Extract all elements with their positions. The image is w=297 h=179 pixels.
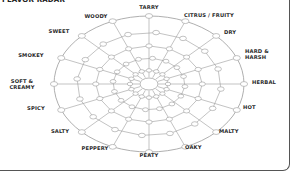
radar-node — [160, 92, 165, 96]
radar-node — [167, 131, 174, 135]
radar-node — [112, 90, 118, 94]
radar-node — [183, 55, 189, 59]
radar-node — [109, 19, 116, 24]
radar-node — [150, 56, 156, 60]
axis-label-hard-harsh: HARD &HARSH — [245, 48, 269, 60]
axis-label-peaty: PEATY — [139, 152, 158, 158]
radar-node — [163, 59, 169, 63]
radar-node — [166, 117, 172, 121]
radar-node — [164, 77, 169, 81]
radar-node — [218, 87, 225, 91]
radar-node — [126, 117, 132, 121]
axis-label-sweet: SWEET — [49, 28, 70, 34]
radar-node — [201, 49, 208, 53]
radar-node — [58, 56, 65, 61]
radar-node — [143, 108, 149, 112]
radar-node — [78, 130, 85, 135]
radar-node — [97, 96, 103, 100]
radar-node — [153, 30, 160, 34]
flavor-radar-diagram: TARRYCITRUS / FRUITYDRYHARD &HARSHHERBAL… — [0, 0, 297, 179]
radar-node — [109, 144, 116, 149]
radar-node — [182, 85, 188, 89]
radar-node — [139, 133, 146, 137]
axis-label-peppery: PEPPERY — [81, 145, 108, 151]
axis-label-salty: SALTY — [51, 128, 69, 134]
radar-node — [129, 77, 134, 81]
axis-label-woody: WOODY — [85, 13, 108, 19]
radar-node — [165, 82, 170, 86]
radar-node — [181, 75, 187, 79]
radar-node — [112, 127, 119, 131]
radar-node — [183, 109, 189, 113]
radar-node — [58, 108, 65, 113]
axis-label-herbal: HERBAL — [252, 79, 277, 85]
radar-node — [215, 67, 222, 71]
radar-node — [77, 97, 84, 101]
radar-node — [129, 87, 134, 91]
radar-node — [114, 70, 120, 74]
radar-node — [125, 32, 132, 36]
radar-node — [133, 73, 138, 77]
radar-node — [174, 66, 180, 70]
radar-node — [199, 82, 205, 86]
radar-node — [191, 122, 198, 126]
radar-node — [74, 77, 81, 81]
radar-node — [78, 34, 85, 39]
radar-node — [146, 69, 151, 73]
radar-node — [123, 62, 129, 66]
radar-node — [146, 120, 152, 124]
axis-label-oaky: OAKY — [185, 144, 202, 150]
radar-node — [160, 73, 165, 77]
radar-node — [146, 44, 152, 48]
radar-node — [178, 94, 184, 98]
radar-node — [93, 82, 99, 86]
axis-label-tarry: TARRY — [139, 4, 158, 10]
radar-node — [110, 80, 116, 84]
radar-node — [182, 19, 189, 24]
radar-node — [50, 82, 57, 87]
radar-node — [129, 105, 135, 109]
axis-label-dry: DRY — [224, 29, 236, 35]
radar-node — [97, 67, 103, 71]
radar-node — [233, 108, 240, 113]
center-node — [140, 78, 158, 90]
radar-node — [240, 82, 247, 87]
axis-label-soft-creamy: SOFT &CREAMY — [9, 78, 34, 90]
axis-label-smokey: SMOKEY — [18, 52, 44, 58]
radar-node — [118, 98, 124, 102]
radar-node — [146, 96, 151, 100]
radar-node — [108, 109, 114, 113]
radar-node — [100, 42, 107, 46]
radar-node — [233, 56, 240, 61]
radar-node — [164, 87, 169, 91]
radar-node — [127, 82, 132, 86]
radar-node — [90, 115, 97, 119]
radar-node — [126, 47, 132, 51]
radar-node — [169, 102, 175, 106]
radar-node — [213, 34, 220, 39]
axis-label-spicy: SPICY — [27, 105, 45, 111]
axis-label-hot: HOT — [243, 104, 256, 110]
radar-node — [82, 57, 89, 61]
radar-node — [139, 95, 144, 99]
radar-node — [108, 55, 114, 59]
radar-node — [154, 70, 159, 74]
radar-node — [133, 92, 138, 96]
radar-node — [195, 96, 201, 100]
radar-node — [157, 107, 163, 111]
radar-node — [180, 36, 187, 40]
radar-node — [145, 14, 152, 19]
radar-node — [136, 57, 142, 61]
radar-node — [166, 47, 172, 51]
radar-node — [154, 95, 159, 99]
axis-label-citrus-fruity: CITRUS / FRUITY — [184, 12, 234, 18]
axis-label-malty: MALTY — [219, 128, 239, 134]
radar-node — [195, 67, 201, 71]
radar-node — [209, 106, 216, 110]
radar-node — [139, 70, 144, 74]
